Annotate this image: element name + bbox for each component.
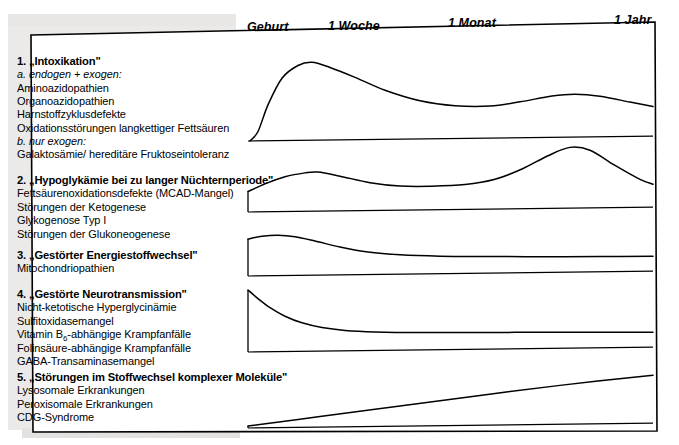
group-item: Glykogenose Typ I — [17, 214, 262, 227]
group-item: Organoazidopathien — [17, 95, 262, 108]
group-item: Galaktosämie/ hereditäre Fruktoseintoler… — [17, 148, 262, 161]
group-subhead-a: a. endogen + exogen: — [17, 68, 262, 81]
group-title: 3. „Gestörter Energiestoffwechsel" — [17, 249, 262, 262]
group-title: 2. „Hypoglykämie bei zu langer Nüchternp… — [17, 174, 262, 187]
timeline-label-1-monat: 1 Monat — [448, 16, 496, 30]
group-item: CDG-Syndrome — [17, 411, 262, 424]
group-item: Störungen der Glukoneogenese — [17, 228, 262, 241]
group-item: Oxidationsstörungen langkettiger Fettsäu… — [17, 122, 262, 135]
figure-page: Geburt 1 Woche 1 Monat 1 Jahr 1. „Intoxi… — [0, 0, 679, 445]
group-item: Folinsäure-abhängige Krampfanfälle — [17, 342, 262, 355]
timeline-label-1-woche: 1 Woche — [328, 19, 380, 33]
group-subhead-b: b. nur exogen: — [17, 135, 262, 148]
group-item: Peroxisomale Erkrankungen — [17, 398, 262, 411]
group-title: 1. „Intoxikation" — [17, 55, 262, 68]
group-item-vitamin-b6: Vitamin B6-abhängige Krampfanfälle — [17, 328, 262, 341]
group-item: GABA-Transaminasemangel — [17, 355, 262, 368]
group-block-hypoglykaemie: 2. „Hypoglykämie bei zu langer Nüchternp… — [17, 174, 262, 241]
group-item: Aminoazidopathien — [17, 82, 262, 95]
timeline-label-1-jahr: 1 Jahr — [614, 13, 651, 27]
group-block-komplexe-molekuele: 5. „Störungen im Stoffwechsel komplexer … — [17, 371, 262, 425]
group-item: Nicht-ketotische Hyperglycinämie — [17, 301, 262, 314]
group-block-intoxikation: 1. „Intoxikation" a. endogen + exogen: A… — [17, 55, 262, 162]
group-item: Sulfitoxidasemangel — [17, 315, 262, 328]
timeline-label-geburt: Geburt — [247, 20, 289, 34]
group-item-label: Vitamin B6-abhängige Krampfanfälle — [17, 328, 191, 340]
group-title: 4. „Gestörte Neurotransmission" — [17, 288, 262, 301]
group-block-energiestoffwechsel: 3. „Gestörter Energiestoffwechsel" Mitoc… — [17, 249, 262, 276]
group-item: Fettsäurenoxidationsdefekte (MCAD-Mangel… — [17, 187, 262, 200]
group-title: 5. „Störungen im Stoffwechsel komplexer … — [17, 371, 262, 384]
group-block-neurotransmission: 4. „Gestörte Neurotransmission" Nicht-ke… — [17, 288, 262, 368]
group-item: Mitochondriopathien — [17, 262, 262, 275]
group-item: Harnstoffzyklusdefekte — [17, 108, 262, 121]
group-item: Störungen der Ketogenese — [17, 201, 262, 214]
group-item: Lysosomale Erkrankungen — [17, 384, 262, 397]
